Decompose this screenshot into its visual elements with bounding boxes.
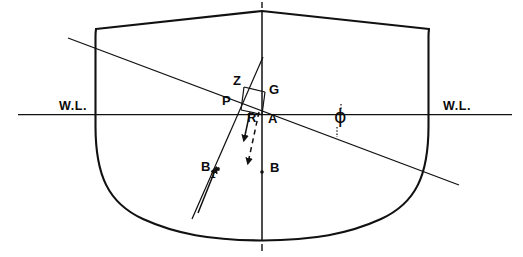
parallelogram-edge-rz <box>241 87 244 110</box>
point-label-a: A <box>268 112 278 125</box>
heel-angle-label: ϕ <box>334 107 347 126</box>
point-label-b1-base: B <box>201 159 211 174</box>
point-markers <box>216 167 264 174</box>
inclined-waterline <box>68 38 459 185</box>
point-label-b1-subscript: 1 <box>211 170 216 180</box>
line-of-buoyancy <box>192 57 263 219</box>
stability-diagram: W.L. W.L. Z G P R A B B1 ϕ <box>0 0 523 257</box>
point-label-b: B <box>270 161 280 174</box>
point-label-z: Z <box>233 74 241 87</box>
waterline-label-right: W.L. <box>443 100 471 113</box>
point-marker-b1 <box>216 167 220 171</box>
diagram-canvas <box>0 0 523 257</box>
point-label-b1: B1 <box>201 160 216 177</box>
waterline-label-left: W.L. <box>59 100 87 113</box>
point-label-g: G <box>269 83 279 96</box>
point-marker-b <box>260 170 264 174</box>
point-label-p: P <box>222 94 231 107</box>
point-label-r: R <box>247 111 257 124</box>
